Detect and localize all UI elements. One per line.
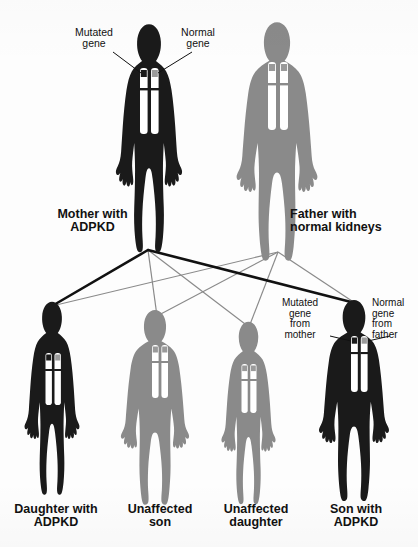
mother-gene-normal bbox=[152, 70, 158, 77]
father-centromere-left bbox=[268, 83, 277, 85]
unaffected-daughter-centromere-left bbox=[241, 379, 248, 381]
mother-chromosome-left bbox=[140, 68, 148, 134]
son-adpkd-gene-normal bbox=[362, 338, 367, 344]
unaffected-son-chromosome-left bbox=[152, 345, 159, 398]
father-chromosome-left bbox=[268, 62, 276, 130]
unaffected-daughter-chromosome-left bbox=[242, 364, 248, 413]
label-daughter-adpkd-line2: ADPKD bbox=[4, 516, 108, 529]
line-mother-to-daughter-adpkd bbox=[52, 250, 148, 306]
label-mother: Mother with ADPKD bbox=[40, 208, 145, 234]
label-unaffected-daughter: Unaffected daughter bbox=[208, 503, 304, 529]
figure-unaffected-son[interactable] bbox=[121, 310, 189, 505]
label-mother-line2: ADPKD bbox=[40, 221, 145, 234]
annotation-mutated-gene: Mutated gene bbox=[68, 27, 120, 49]
unaffected-son-gene-normal-right bbox=[162, 347, 167, 353]
label-son-adpkd-line2: ADPKD bbox=[312, 516, 400, 529]
figure-daughter-adpkd[interactable] bbox=[25, 302, 80, 495]
annotation-ngff-line3: from bbox=[372, 319, 418, 330]
annotation-mgfm-line3: from bbox=[272, 319, 328, 330]
annotation-ngff-line1: Normal bbox=[372, 298, 418, 309]
unaffected-son-centromere-right bbox=[161, 361, 168, 363]
unaffected-daughter-gene-normal-right bbox=[251, 366, 256, 372]
father-gene-normal-right bbox=[281, 64, 287, 71]
unaffected-daughter-body-silhouette bbox=[221, 322, 275, 504]
mother-chromosome-right bbox=[151, 68, 159, 134]
unaffected-daughter-centromere-right bbox=[250, 379, 257, 381]
label-unaffected-daughter-line2: daughter bbox=[208, 516, 304, 529]
label-father-line2: normal kidneys bbox=[290, 221, 415, 234]
unaffected-son-gene-normal-left bbox=[153, 347, 158, 353]
daughter-adpkd-gene-mutated bbox=[46, 355, 51, 361]
label-daughter-adpkd: Daughter with ADPKD bbox=[4, 503, 108, 529]
daughter-adpkd-gene-normal bbox=[55, 355, 60, 361]
mother-centromere-right bbox=[151, 88, 159, 90]
line-father-to-unaffected-son bbox=[157, 252, 278, 316]
leader-mutated-gene bbox=[113, 52, 141, 73]
father-chromosome-right bbox=[280, 62, 288, 130]
son-adpkd-gene-mutated bbox=[352, 338, 357, 344]
father-centromere-right bbox=[280, 83, 289, 85]
mother-gene-mutated bbox=[141, 70, 147, 77]
son-adpkd-centromere-right bbox=[360, 352, 368, 354]
unaffected-son-centromere-left bbox=[152, 361, 159, 363]
unaffected-son-chromosome-right bbox=[161, 345, 168, 398]
line-father-to-daughter-adpkd bbox=[52, 252, 278, 306]
annotation-normal-gene: Normal gene bbox=[172, 27, 224, 49]
annotation-normal-gene-line2: gene bbox=[172, 38, 224, 49]
daughter-adpkd-chromosome-right bbox=[55, 353, 61, 405]
daughter-adpkd-chromosome-left bbox=[46, 353, 52, 405]
daughter-adpkd-centromere-left bbox=[45, 369, 52, 371]
label-father: Father with normal kidneys bbox=[290, 208, 415, 234]
son-adpkd-centromere-left bbox=[351, 352, 359, 354]
son-adpkd-chromosome-right bbox=[361, 336, 368, 392]
son-adpkd-chromosome-left bbox=[351, 336, 358, 392]
annotation-mutated-gene-from-mother: Mutated gene from mother bbox=[272, 298, 328, 340]
diagram-canvas bbox=[0, 0, 418, 547]
mother-centromere-left bbox=[140, 88, 148, 90]
annotation-mutated-gene-line2: gene bbox=[68, 38, 120, 49]
label-unaffected-son-line2: son bbox=[113, 516, 207, 529]
label-unaffected-son: Unaffected son bbox=[113, 503, 207, 529]
daughter-adpkd-centromere-right bbox=[54, 369, 61, 371]
unaffected-daughter-gene-normal-left bbox=[242, 366, 247, 372]
father-gene-normal-left bbox=[269, 64, 275, 71]
figure-unaffected-daughter[interactable] bbox=[221, 322, 275, 504]
label-son-adpkd: Son with ADPKD bbox=[312, 503, 400, 529]
leader-normal-gene bbox=[158, 52, 192, 73]
annotation-mgfm-line1: Mutated bbox=[272, 298, 328, 309]
annotation-ngff-line4: father bbox=[372, 330, 418, 341]
unaffected-son-body-silhouette bbox=[121, 310, 189, 505]
annotation-normal-gene-from-father: Normal gene from father bbox=[372, 298, 418, 340]
annotation-mgfm-line4: mother bbox=[272, 330, 328, 341]
pedigree-diagram: Mutated gene Normal gene Mother with ADP… bbox=[0, 0, 418, 547]
unaffected-daughter-chromosome-right bbox=[250, 364, 256, 413]
daughter-adpkd-body-silhouette bbox=[25, 302, 80, 495]
